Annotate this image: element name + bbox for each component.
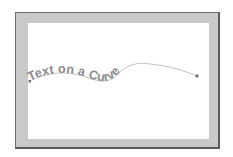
curve-endpoint-handle [196,75,199,78]
text-on-curve-graphic: Text on a Curve [0,0,233,157]
curve-text: Text on a Curve [26,62,123,84]
curve-text-path: Text on a Curve [26,62,123,84]
curve-startpoint-handle [29,80,32,83]
